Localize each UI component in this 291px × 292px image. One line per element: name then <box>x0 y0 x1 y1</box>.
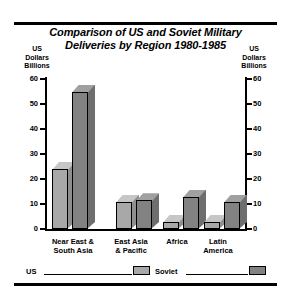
y-tick-label-r-50: 50 <box>253 100 271 108</box>
y-tick-label-r-10: 10 <box>253 200 271 208</box>
y-tick-r-20 <box>247 178 252 180</box>
y-tick-label-l-40: 40 <box>20 125 38 133</box>
y-tick-l-40 <box>40 128 45 130</box>
legend-swatch-soviet <box>249 266 266 275</box>
y-tick-label-l-30: 30 <box>20 150 38 158</box>
y-tick-label-r-0: 0 <box>253 225 271 233</box>
y-tick-r-60 <box>247 78 252 80</box>
y-tick-label-l-50: 50 <box>20 100 38 108</box>
y-tick-l-10 <box>40 203 45 205</box>
bar-soviet-0 <box>72 85 95 230</box>
bar-front-face <box>52 169 68 229</box>
bar-front-face <box>183 197 199 230</box>
y-tick-l-60 <box>40 78 45 80</box>
y-tick-label-r-40: 40 <box>253 125 271 133</box>
y-tick-r-50 <box>247 103 252 105</box>
category-label-0: Near East &South Asia <box>40 237 106 255</box>
y-tick-r-10 <box>247 203 252 205</box>
category-label-1-line-0: East Asia <box>104 237 158 246</box>
y-tick-label-r-20: 20 <box>253 175 271 183</box>
category-label-3: LatinAmerica <box>192 237 244 255</box>
bar-soviet-3 <box>224 195 247 230</box>
legend-label-soviet: Soviet <box>155 267 178 276</box>
chart-page: Comparison of US and Soviet Military Del… <box>0 0 291 292</box>
plot-area: 00101020203030404050506060 Near East &So… <box>0 0 291 292</box>
bar-front-face <box>204 222 220 230</box>
bar-front-face <box>224 202 240 230</box>
y-tick-l-50 <box>40 103 45 105</box>
legend-item-soviet[interactable]: Soviet <box>155 266 267 277</box>
y-tick-label-l-60: 60 <box>20 75 38 83</box>
y-tick-r-30 <box>247 153 252 155</box>
x-axis-baseline <box>45 229 246 231</box>
bar-front-face <box>163 222 179 230</box>
y-tick-label-l-10: 10 <box>20 200 38 208</box>
y-tick-r-0 <box>247 228 252 230</box>
bar-side-face <box>87 85 95 230</box>
y-tick-label-l-20: 20 <box>20 175 38 183</box>
y-tick-r-40 <box>247 128 252 130</box>
y-tick-l-0 <box>40 228 45 230</box>
y-tick-l-30 <box>40 153 45 155</box>
category-label-1-line-1: & Pacific <box>104 246 158 255</box>
y-axis-left <box>45 77 47 231</box>
bar-soviet-2 <box>183 190 206 230</box>
legend-label-us: US <box>26 267 36 276</box>
category-label-0-line-0: Near East & <box>40 237 106 246</box>
category-label-0-line-1: South Asia <box>40 246 106 255</box>
y-tick-label-r-60: 60 <box>253 75 271 83</box>
legend-leader-line <box>186 274 248 275</box>
bar-front-face <box>116 202 132 230</box>
legend-leader-line <box>44 274 132 275</box>
y-tick-label-r-30: 30 <box>253 150 271 158</box>
category-label-3-line-0: Latin <box>192 237 244 246</box>
bar-front-face <box>136 200 152 229</box>
bar-soviet-1 <box>136 193 159 229</box>
y-tick-label-l-0: 0 <box>20 225 38 233</box>
legend-swatch-us <box>133 266 150 275</box>
category-label-3-line-1: America <box>192 246 244 255</box>
category-label-1: East Asia& Pacific <box>104 237 158 255</box>
legend-item-us[interactable]: US <box>26 266 151 277</box>
y-tick-l-20 <box>40 178 45 180</box>
bar-front-face <box>72 92 88 230</box>
